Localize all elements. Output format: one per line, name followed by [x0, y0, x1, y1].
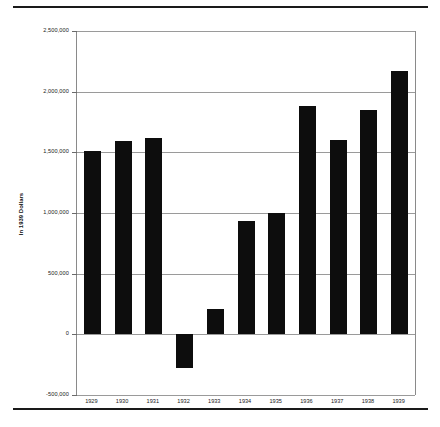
bar[interactable] — [207, 309, 224, 334]
bottom-divider-rule — [13, 408, 428, 410]
gridline — [77, 395, 415, 396]
y-axis-tick-label: 500,000 — [48, 271, 69, 277]
bar[interactable] — [176, 334, 193, 368]
y-axis-tick-label: 1,000,000 — [43, 210, 69, 216]
bar[interactable] — [268, 213, 285, 334]
x-axis-tick-label: 1932 — [177, 399, 189, 405]
x-axis-tick-label: 1937 — [331, 399, 343, 405]
x-axis-tick-label: 1939 — [392, 399, 404, 405]
bar[interactable] — [299, 106, 316, 334]
bar[interactable] — [84, 151, 101, 334]
bar[interactable] — [391, 71, 408, 334]
bar[interactable] — [115, 141, 132, 334]
x-axis-tick-label: 1934 — [239, 399, 251, 405]
x-axis-tick-label: 1930 — [116, 399, 128, 405]
y-axis-tick-label: 2,500,000 — [43, 28, 69, 34]
bar[interactable] — [145, 138, 162, 335]
x-axis-tick-label: 1931 — [147, 399, 159, 405]
y-axis-tick-label: 0 — [66, 332, 69, 338]
bars-group — [77, 31, 415, 395]
y-axis-tick-mark — [72, 395, 77, 396]
x-axis-tick-label: 1929 — [85, 399, 97, 405]
plot-area: 2,500,0002,000,0001,500,0001,000,000500,… — [76, 31, 416, 395]
bar[interactable] — [360, 110, 377, 334]
y-axis-tick-label: 1,500,000 — [43, 150, 69, 156]
bar[interactable] — [238, 221, 255, 334]
chart-page: In 1939 Dollars 2,500,0002,000,0001,500,… — [0, 0, 440, 427]
x-axis-tick-label: 1933 — [208, 399, 220, 405]
bar[interactable] — [330, 140, 347, 334]
y-axis-title: In 1939 Dollars — [18, 192, 24, 234]
y-axis-tick-label: 2,000,000 — [43, 89, 69, 95]
x-axis-tick-label: 1938 — [362, 399, 374, 405]
x-axis-tick-label: 1935 — [269, 399, 281, 405]
y-axis-tick-label: -500,000 — [46, 392, 69, 398]
x-axis-tick-label: 1936 — [300, 399, 312, 405]
bar-chart: In 1939 Dollars 2,500,0002,000,0001,500,… — [0, 0, 440, 427]
x-axis-labels-group: 1929193019311932193319341935193619371938… — [76, 399, 414, 413]
